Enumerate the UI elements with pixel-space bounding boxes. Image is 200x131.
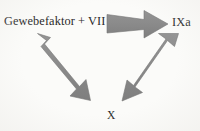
diagram-canvas: Gewebefaktor + VII IXa X [0, 0, 200, 131]
node-label-tissue-factor: Gewebefaktor + VII [4, 15, 105, 27]
node-label-x: X [107, 110, 115, 122]
block-arrow-down-right-icon [38, 34, 91, 101]
block-arrow-down-left-icon [122, 34, 179, 102]
node-label-ixa: IXa [172, 16, 191, 28]
